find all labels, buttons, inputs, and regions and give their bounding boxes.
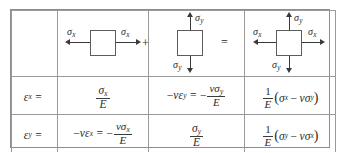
sigma-y-bottom-arrow-head: [286, 68, 292, 73]
sigma-a-base: σ: [279, 130, 285, 142]
stress-strain-table: σx σx +: [10, 9, 330, 148]
cell-diagram-label-empty: [12, 11, 58, 77]
equals-operator: =: [221, 35, 228, 50]
second-minus: −: [106, 127, 113, 139]
sigma-y-bottom-arrow-head: [187, 68, 193, 73]
fraction: σy E: [190, 123, 203, 149]
cell-epsilon-y-label: εy=: [12, 115, 58, 153]
biaxial-stress-element: σx σx σy: [245, 11, 335, 76]
denominator: E: [263, 98, 274, 111]
sigma-x-left-arrow-shaft: [258, 42, 276, 43]
equals-sign: =: [96, 127, 103, 139]
fraction: 1 E: [263, 124, 274, 148]
sigma-x-right-arrow-head: [136, 39, 141, 45]
numerator: 1: [263, 124, 273, 136]
uniaxial-x-stress-element: σx σx +: [58, 11, 148, 76]
numerator: νσx: [114, 121, 132, 134]
denominator: E: [96, 98, 109, 111]
sigma-x-right-arrow-shaft: [116, 42, 136, 43]
right-paren: ): [314, 129, 319, 144]
epsilon-x-label: εx=: [24, 91, 46, 103]
cell-epsilon-x-term-2: −νεy=− νσy E: [149, 77, 245, 115]
cell-uniaxial-y: σy σy =: [149, 11, 245, 77]
denominator: E: [190, 136, 203, 149]
equals-sign: =: [190, 89, 197, 101]
sigma-a-sub: y: [285, 132, 288, 140]
table: σx σx +: [11, 10, 336, 152]
table-row-epsilon-y: εy= −νεx=− νσx E σy: [12, 115, 336, 153]
cell-epsilon-y-term-3: 1 E (σy−νσx): [245, 115, 336, 153]
sigma-y-top-label: σy: [195, 12, 203, 25]
numerator: νσy: [207, 83, 225, 96]
cell-epsilon-x-term-1: σx E: [58, 77, 149, 115]
element-square: [90, 30, 116, 56]
cell-epsilon-y-term-1: −νεx=− νσx E: [58, 115, 149, 153]
uniaxial-y-stress-element: σy σy =: [149, 11, 244, 76]
sigma-x-left-arrow-shaft: [70, 42, 90, 43]
numerator: σy: [190, 123, 203, 136]
cell-biaxial: σx σx σy: [245, 11, 336, 77]
sigma-x-right-label: σx: [121, 26, 129, 39]
sigma-a-base: σ: [279, 92, 285, 104]
sigma-y-top-label: σy: [294, 12, 302, 25]
epsilon-sub: x: [90, 130, 93, 138]
table-row-diagrams: σx σx +: [12, 11, 336, 77]
cell-uniaxial-x: σx σx +: [58, 11, 149, 77]
one-over-E-times-parenthetical: 1 E (σx−νσy): [262, 86, 319, 110]
figure-canvas: σx σx +: [0, 0, 339, 152]
sigma-x-right-arrow-head: [320, 39, 325, 45]
right-paren: ): [314, 91, 319, 106]
fraction: 1 E: [263, 86, 274, 110]
one-over-E-times-parenthetical: 1 E (σy−νσx): [262, 124, 319, 148]
sigma-y-top-arrow-head: [187, 12, 193, 17]
denominator: E: [263, 136, 274, 149]
sigma-x-right-arrow-shaft: [302, 42, 320, 43]
sigma-x-over-E: σx E: [95, 85, 110, 111]
sigma-y-top-arrow-shaft: [289, 17, 290, 30]
fraction: νσy E: [207, 83, 225, 108]
minus-sign: −: [291, 130, 298, 142]
denominator: E: [114, 134, 132, 147]
sigma-y-over-E: σy E: [189, 123, 204, 149]
minus-sign: −: [291, 92, 298, 104]
element-square: [276, 30, 302, 56]
fraction: νσx E: [114, 121, 132, 146]
numerator: σx: [96, 85, 109, 98]
sigma-y-top-arrow-head: [286, 12, 292, 17]
minus-nu-epsilon-x-expression: −νεx=− νσx E: [73, 121, 132, 146]
sigma-x-right-label: σx: [308, 26, 316, 39]
epsilon-y-label: εy=: [24, 129, 46, 141]
table-row-epsilon-x: εx= σx E −νεy=− νσy: [12, 77, 336, 115]
sigma-x-left-label: σx: [253, 26, 261, 39]
sigma-b-base: σ: [305, 92, 311, 104]
sigma-x-left-arrow-head: [253, 39, 258, 45]
sigma-y-bottom-label: σy: [272, 59, 280, 72]
cell-epsilon-x-label: εx=: [12, 77, 58, 115]
numerator: 1: [263, 86, 273, 98]
cell-epsilon-y-term-2: σy E: [149, 115, 245, 153]
minus-nu-epsilon-y-expression: −νεy=− νσy E: [167, 83, 226, 108]
sigma-y-top-arrow-shaft: [190, 17, 191, 30]
sigma-a-sub: x: [285, 94, 288, 102]
denominator: E: [207, 96, 225, 109]
epsilon-sub: y: [183, 92, 186, 100]
sigma-y-bottom-label: σy: [173, 59, 181, 72]
element-square: [177, 30, 203, 56]
sigma-x-left-arrow-head: [65, 39, 70, 45]
cell-epsilon-x-term-3: 1 E (σx−νσy): [245, 77, 336, 115]
second-minus: −: [200, 89, 207, 101]
sigma-b-base: σ: [305, 130, 311, 142]
sigma-x-left-label: σx: [67, 26, 75, 39]
fraction: σx E: [96, 85, 109, 111]
